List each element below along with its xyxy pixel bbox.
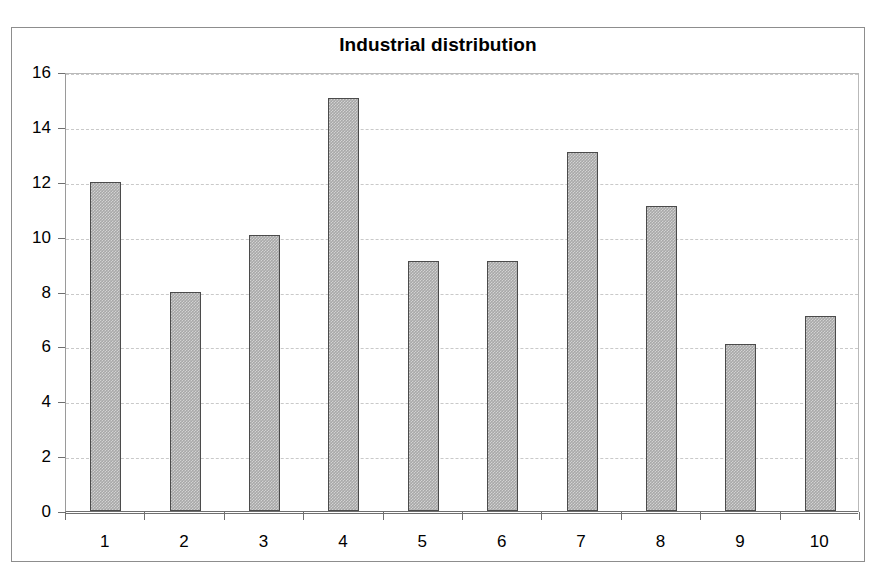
bar[interactable] [805, 316, 836, 511]
x-axis-tick [303, 512, 304, 520]
bar[interactable] [646, 206, 677, 511]
x-axis-label: 9 [700, 533, 779, 550]
y-axis-label: 0 [12, 503, 51, 520]
y-axis-tick-8 [58, 293, 65, 294]
x-axis-label: 4 [303, 533, 382, 550]
x-axis-label: 8 [621, 533, 700, 550]
bar[interactable] [249, 235, 280, 511]
x-axis-tick [780, 512, 781, 520]
chart-container: Industrial distribution 1614121086420 12… [0, 0, 880, 576]
y-axis-tick-0 [58, 512, 65, 513]
x-axis-tick [224, 512, 225, 520]
y-axis-tick-10 [58, 238, 65, 239]
y-axis-label: 6 [12, 338, 51, 355]
bar[interactable] [328, 98, 359, 511]
chart-title: Industrial distribution [12, 34, 864, 56]
y-axis-label: 12 [12, 174, 51, 191]
y-axis-tick-6 [58, 347, 65, 348]
bar-group [66, 74, 858, 511]
bar[interactable] [170, 292, 201, 512]
y-axis-label: 2 [12, 448, 51, 465]
y-axis-label: 14 [12, 119, 51, 136]
x-axis-label: 2 [144, 533, 223, 550]
x-axis-tick [462, 512, 463, 520]
x-axis-tick [700, 512, 701, 520]
x-axis-tick [541, 512, 542, 520]
plot-area [65, 73, 859, 512]
bar[interactable] [90, 182, 121, 511]
y-axis-tick-12 [58, 183, 65, 184]
y-axis-tick-2 [58, 457, 65, 458]
y-axis-tick-4 [58, 402, 65, 403]
bar[interactable] [567, 152, 598, 511]
x-axis-tick [859, 512, 860, 520]
chart-frame: Industrial distribution 1614121086420 12… [11, 27, 865, 562]
bar[interactable] [725, 344, 756, 511]
x-axis-label: 6 [462, 533, 541, 550]
x-axis-label: 5 [383, 533, 462, 550]
y-axis-tick-14 [58, 128, 65, 129]
y-axis-label: 16 [12, 64, 51, 81]
x-axis-tick [65, 512, 66, 520]
y-axis-label: 10 [12, 229, 51, 246]
x-axis-label: 10 [780, 533, 859, 550]
x-axis-label: 1 [65, 533, 144, 550]
y-axis-label: 4 [12, 393, 51, 410]
bar[interactable] [408, 261, 439, 511]
x-axis-label: 3 [224, 533, 303, 550]
y-axis-tick-16 [58, 73, 65, 74]
y-axis-label: 8 [12, 284, 51, 301]
x-axis-tick [621, 512, 622, 520]
x-axis-label: 7 [541, 533, 620, 550]
x-axis-tick [144, 512, 145, 520]
x-axis-tick [383, 512, 384, 520]
bar[interactable] [487, 261, 518, 511]
